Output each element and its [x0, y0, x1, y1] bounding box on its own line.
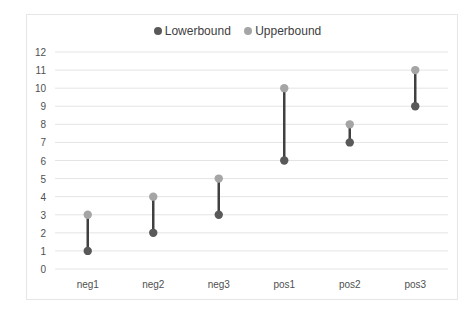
plot-area: [0, 0, 475, 309]
upperbound-point[interactable]: [215, 174, 223, 182]
lowerbound-point[interactable]: [280, 156, 288, 164]
upperbound-point[interactable]: [84, 211, 92, 219]
lowerbound-point[interactable]: [346, 138, 354, 146]
lowerbound-point[interactable]: [215, 211, 223, 219]
lowerbound-point[interactable]: [149, 229, 157, 237]
lowerbound-point[interactable]: [411, 102, 419, 110]
upperbound-point[interactable]: [346, 120, 354, 128]
upperbound-point[interactable]: [280, 84, 288, 92]
lowerbound-point[interactable]: [84, 247, 92, 255]
upperbound-point[interactable]: [149, 192, 157, 200]
upperbound-point[interactable]: [411, 66, 419, 74]
